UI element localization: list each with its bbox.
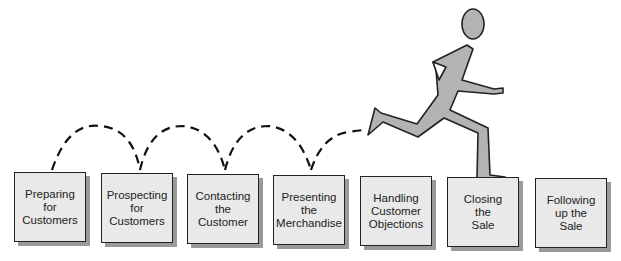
step-label: Presenting the Merchandise — [276, 191, 342, 230]
step-presenting-the-merchandise: Presenting the Merchandise — [273, 175, 345, 245]
step-label: Prospecting for Customers — [107, 189, 168, 228]
running-person-icon — [368, 9, 505, 178]
step-label: Handling Customer Objections — [369, 192, 423, 231]
step-closing-the-sale: Closing the Sale — [447, 177, 519, 247]
step-label: Contacting the Customer — [196, 190, 251, 229]
step-label: Following up the Sale — [547, 194, 596, 233]
dashed-jump-arcs — [52, 126, 366, 170]
selling-process-diagram: Preparing for Customers Prospecting for … — [0, 0, 621, 261]
step-label: Preparing for Customers — [22, 188, 78, 227]
step-preparing-for-customers: Preparing for Customers — [14, 172, 86, 242]
step-label: Closing the Sale — [464, 193, 502, 232]
step-prospecting-for-customers: Prospecting for Customers — [101, 173, 173, 243]
step-handling-customer-objections: Handling Customer Objections — [360, 176, 432, 246]
step-following-up-the-sale: Following up the Sale — [535, 178, 607, 248]
step-contacting-the-customer: Contacting the Customer — [187, 174, 259, 244]
